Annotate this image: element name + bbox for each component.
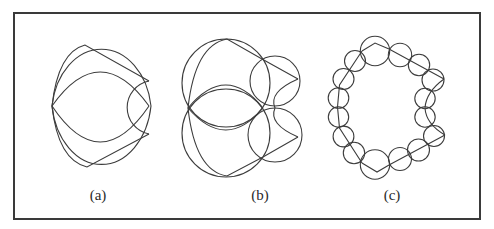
panel-c-diagram (328, 36, 445, 179)
panel-c-circle (360, 36, 389, 65)
panel-b-label: (b) (251, 187, 269, 204)
panel-c-curve (362, 135, 445, 172)
panel-c-curve (362, 43, 444, 79)
figure-canvas: (a) (b) (c) (0, 0, 494, 229)
panel-a-label: (a) (90, 187, 107, 204)
panel-b-curve (188, 108, 298, 176)
panel-c-circle (422, 69, 444, 91)
panel-b-diagram (182, 39, 302, 177)
panel-b-curve (188, 39, 298, 108)
panel-a-diagram (52, 45, 151, 167)
panel-c-circle (424, 126, 445, 147)
panel-b-circle (182, 89, 270, 177)
panel-c-circle (343, 142, 364, 163)
panel-b-circle (182, 39, 270, 127)
panel-a-curve (127, 81, 149, 134)
panel-b-curve (188, 85, 263, 108)
panel-a-curve (52, 106, 151, 164)
panel-a-curve (52, 106, 149, 167)
panel-c-label: (c) (384, 187, 401, 204)
panel-c-circle (333, 126, 354, 147)
panel-a-curve (52, 106, 149, 142)
panel-a-curve (52, 45, 149, 106)
